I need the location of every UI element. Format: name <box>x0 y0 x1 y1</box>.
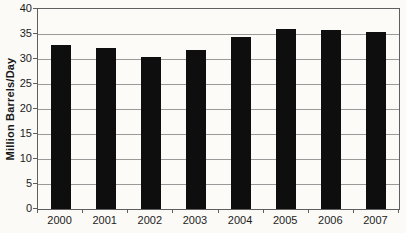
x-tick-label-2003: 2003 <box>172 214 217 226</box>
x-tick-mark-3 <box>172 209 173 213</box>
bar-chart: Million Barrels/Day 05101520253035402000… <box>0 0 406 233</box>
bar-2003 <box>186 50 206 209</box>
x-tick-mark-6 <box>308 209 309 213</box>
x-tick-label-2002: 2002 <box>127 214 172 226</box>
y-tick-mark-40 <box>33 8 37 9</box>
y-tick-mark-25 <box>33 83 37 84</box>
y-tick-label-30: 30 <box>0 52 32 64</box>
y-tick-label-25: 25 <box>0 77 32 89</box>
bar-2007 <box>366 32 386 209</box>
gridline-10 <box>38 159 399 160</box>
bar-2002 <box>141 57 161 210</box>
bar-2001 <box>96 48 116 209</box>
gridline-20 <box>38 109 399 110</box>
y-tick-label-20: 20 <box>0 102 32 114</box>
x-tick-mark-0 <box>37 209 38 213</box>
bar-2000 <box>51 45 71 209</box>
y-tick-label-15: 15 <box>0 127 32 139</box>
y-tick-label-0: 0 <box>0 202 32 214</box>
y-tick-label-40: 40 <box>0 2 32 14</box>
x-tick-label-2000: 2000 <box>37 214 82 226</box>
bar-2004 <box>231 37 251 210</box>
y-tick-mark-5 <box>33 183 37 184</box>
y-tick-mark-20 <box>33 108 37 109</box>
gridline-30 <box>38 59 399 60</box>
y-tick-label-35: 35 <box>0 27 32 39</box>
y-tick-label-5: 5 <box>0 177 32 189</box>
x-tick-mark-4 <box>218 209 219 213</box>
bar-2005 <box>276 29 296 209</box>
x-tick-mark-2 <box>127 209 128 213</box>
x-tick-label-2001: 2001 <box>82 214 127 226</box>
y-tick-mark-35 <box>33 33 37 34</box>
x-tick-mark-1 <box>82 209 83 213</box>
gridline-15 <box>38 134 399 135</box>
x-tick-label-2006: 2006 <box>308 214 353 226</box>
gridline-25 <box>38 84 399 85</box>
y-tick-mark-15 <box>33 133 37 134</box>
y-tick-mark-30 <box>33 58 37 59</box>
gridline-5 <box>38 184 399 185</box>
x-tick-mark-8 <box>398 209 399 213</box>
y-tick-mark-10 <box>33 158 37 159</box>
x-tick-label-2007: 2007 <box>353 214 398 226</box>
plot-area <box>37 8 400 210</box>
x-tick-mark-5 <box>263 209 264 213</box>
x-tick-mark-7 <box>353 209 354 213</box>
x-tick-label-2004: 2004 <box>218 214 263 226</box>
gridline-35 <box>38 34 399 35</box>
bar-2006 <box>321 30 341 209</box>
y-tick-label-10: 10 <box>0 152 32 164</box>
x-tick-label-2005: 2005 <box>263 214 308 226</box>
